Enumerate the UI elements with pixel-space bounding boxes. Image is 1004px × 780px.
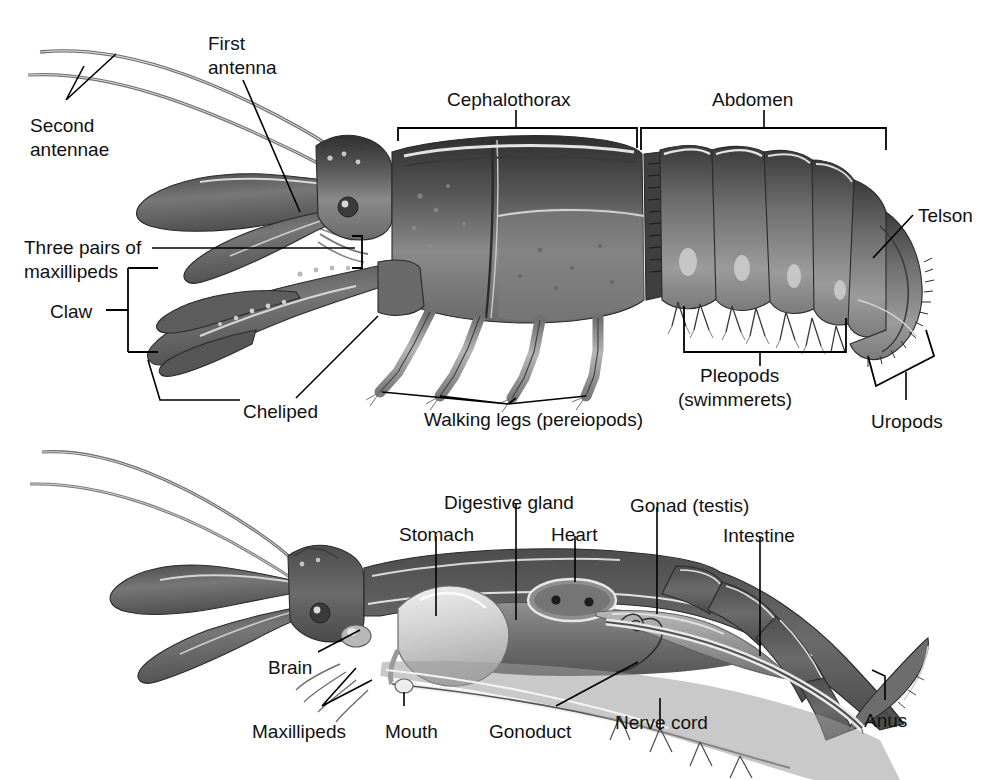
label-first-antenna-line1: First <box>208 33 246 54</box>
label-cephalothorax: Cephalothorax <box>447 89 571 110</box>
label-second-antennae-line2: antennae <box>30 139 109 160</box>
label-digestive-gland: Digestive gland <box>444 492 574 513</box>
anatomy-figure: Second antennae First antenna Cephalotho… <box>0 0 1004 780</box>
label-telson: Telson <box>918 205 973 226</box>
label-pleopods-line2: (swimmerets) <box>678 389 792 410</box>
heart-ostium-right <box>584 597 593 606</box>
label-abdomen: Abdomen <box>712 89 793 110</box>
label-stomach: Stomach <box>399 524 474 545</box>
anatomy-figure-canvas: Second antennae First antenna Cephalotho… <box>0 0 1004 780</box>
brain-shape <box>341 625 371 647</box>
label-gonoduct: Gonoduct <box>489 721 572 742</box>
label-first-antenna-line2: antenna <box>208 57 277 78</box>
cephalothorax-illustration <box>392 136 664 323</box>
label-uropods: Uropods <box>871 411 943 432</box>
label-pleopods-line1: Pleopods <box>700 365 779 386</box>
label-maxillipeds: Maxillipeds <box>252 721 346 742</box>
heart-ostium-left <box>551 595 560 604</box>
label-walking-legs: Walking legs (pereiopods) <box>424 409 643 430</box>
label-intestine: Intestine <box>723 525 795 546</box>
label-anus: Anus <box>864 710 907 731</box>
mouth-shape <box>395 679 413 693</box>
label-gonad-testis: Gonad (testis) <box>630 495 749 516</box>
label-three-pairs-maxillipeds-line1: Three pairs of <box>24 237 142 258</box>
label-cheliped: Cheliped <box>243 401 318 422</box>
label-three-pairs-maxillipeds-line2: maxillipeds <box>24 261 118 282</box>
label-brain: Brain <box>268 657 312 678</box>
label-heart: Heart <box>551 524 598 545</box>
label-mouth: Mouth <box>385 721 438 742</box>
label-second-antennae-line1: Second <box>30 115 94 136</box>
label-claw: Claw <box>50 301 93 322</box>
label-nerve-cord: Nerve cord <box>615 712 708 733</box>
